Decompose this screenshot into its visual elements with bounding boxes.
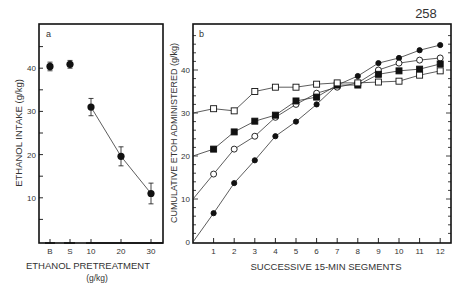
- panel-a-data: [46, 60, 154, 203]
- x-tick-label: 9: [376, 247, 381, 256]
- panel-a-x-label: ETHANOL PRETREATMENT: [26, 260, 150, 271]
- panel-b-y-label: CUMULATIVE ETOH ADMINISTERED (g/kg): [169, 43, 179, 223]
- data-point: [231, 129, 237, 135]
- x-tick-label: 20: [117, 247, 126, 256]
- data-point: [87, 103, 94, 110]
- data-point: [376, 61, 381, 66]
- x-tick-label: 6: [314, 247, 319, 256]
- panel-a-y-axis: 10203040: [27, 47, 43, 220]
- x-tick-label: 8: [356, 247, 361, 256]
- page-number: 258: [415, 6, 437, 21]
- series-line: [193, 58, 440, 199]
- data-point: [355, 80, 361, 86]
- data-point: [272, 84, 278, 90]
- x-tick-label: 10: [395, 247, 404, 256]
- x-tick-label: 30: [147, 247, 156, 256]
- x-tick-label: 1: [211, 247, 216, 256]
- panel-b-x-label: SUCCESSIVE 15-MIN SEGMENTS: [251, 261, 402, 272]
- data-point: [437, 61, 443, 67]
- y-tick-label: 20: [27, 151, 36, 160]
- data-point: [211, 146, 217, 152]
- panel-a: a 10203040 BS102030 ETHANOL PRETREATMENT…: [13, 24, 163, 283]
- data-point: [252, 133, 258, 139]
- data-point: [117, 153, 124, 160]
- series-line: [193, 64, 440, 156]
- panel-a-label: a: [46, 29, 51, 39]
- data-point: [211, 106, 217, 112]
- panel-a-y-label: ETHANOL INTAKE (g/kg): [13, 79, 24, 187]
- x-tick-label: 7: [335, 247, 340, 256]
- data-point: [417, 57, 423, 63]
- data-point: [314, 102, 319, 107]
- data-point: [272, 112, 278, 118]
- data-point: [232, 180, 237, 185]
- data-point: [375, 79, 381, 85]
- data-point: [252, 158, 257, 163]
- data-point: [396, 60, 402, 66]
- panel-b-data: [193, 42, 443, 242]
- data-point: [334, 80, 340, 86]
- data-point: [437, 55, 443, 61]
- data-point: [375, 71, 381, 77]
- figure: 258 a 10203040 BS102030 ETHANOL PRETREAT…: [0, 0, 462, 290]
- data-point: [293, 84, 299, 90]
- data-point: [417, 48, 422, 53]
- data-point: [437, 68, 443, 74]
- x-tick-label: 3: [253, 247, 258, 256]
- y-tick-label: 40: [181, 66, 190, 75]
- data-point: [314, 94, 320, 100]
- data-point: [211, 211, 216, 216]
- data-point: [293, 119, 298, 124]
- panel-b-x-axis: 123456789101112: [211, 238, 445, 256]
- data-point: [231, 108, 237, 114]
- data-point: [438, 42, 443, 47]
- panel-a-frame: [39, 24, 163, 243]
- data-point: [211, 171, 217, 177]
- x-tick-label: 11: [415, 247, 424, 256]
- data-point: [252, 89, 258, 95]
- x-tick-label: B: [47, 247, 52, 256]
- data-point: [396, 78, 402, 84]
- y-tick-label: 0: [186, 238, 191, 247]
- panel-a-x-units: (g/kg): [86, 273, 108, 283]
- panel-b-y-axis: 010203040: [181, 36, 451, 247]
- panel-a-x-axis: BS102030: [39, 239, 163, 256]
- x-tick-label: 5: [294, 247, 299, 256]
- data-point: [355, 73, 360, 78]
- data-point: [417, 66, 423, 72]
- data-point: [147, 190, 154, 197]
- x-tick-label: 12: [436, 247, 445, 256]
- x-tick-label: S: [67, 247, 72, 256]
- data-point: [293, 98, 299, 104]
- x-tick-label: 2: [232, 247, 237, 256]
- data-point: [66, 61, 73, 68]
- data-point: [396, 68, 402, 74]
- data-point: [273, 134, 278, 139]
- x-tick-label: 10: [87, 247, 96, 256]
- y-tick-label: 10: [27, 194, 36, 203]
- data-point: [231, 146, 237, 152]
- data-point: [314, 81, 320, 87]
- series-line: [193, 45, 440, 242]
- data-point: [417, 72, 423, 78]
- data-point: [46, 63, 53, 70]
- y-tick-label: 40: [27, 64, 36, 73]
- data-point: [252, 118, 258, 124]
- x-tick-label: 4: [273, 247, 278, 256]
- panel-b-label: b: [199, 29, 204, 39]
- y-tick-label: 10: [181, 195, 190, 204]
- panel-b: b 010203040 123456789101112 SUCCESSIVE 1…: [169, 24, 451, 272]
- y-tick-label: 30: [27, 107, 36, 116]
- y-tick-label: 20: [181, 152, 190, 161]
- y-tick-label: 30: [181, 109, 190, 118]
